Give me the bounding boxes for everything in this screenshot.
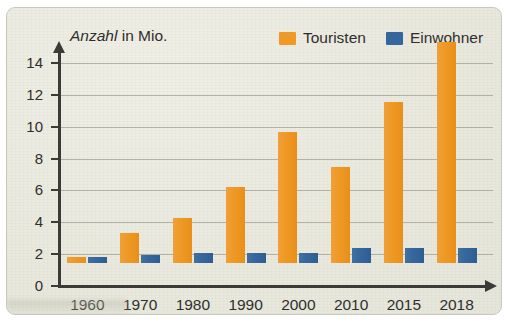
bar-touristen-1960[interactable]	[67, 257, 86, 263]
x-category-label-2000: 2000	[272, 296, 325, 314]
x-category-label-2010: 2010	[325, 296, 378, 314]
x-category-label-2018: 2018	[430, 296, 483, 314]
bar-touristen-1970[interactable]	[120, 233, 139, 263]
x-category-label-1980: 1980	[167, 296, 220, 314]
bar-einwohner-1960[interactable]	[88, 257, 107, 263]
scan-shadow	[7, 300, 127, 315]
chart-page: 02468101214 Anzahl in Mio. Touristen Ein…	[0, 0, 508, 329]
bar-einwohner-2010[interactable]	[352, 248, 371, 263]
bar-touristen-1980[interactable]	[173, 218, 192, 263]
bar-groups	[7, 8, 501, 314]
bar-touristen-2000[interactable]	[278, 132, 297, 263]
bar-touristen-2015[interactable]	[384, 102, 403, 263]
bar-touristen-2010[interactable]	[331, 167, 350, 263]
bar-touristen-1990[interactable]	[226, 187, 245, 263]
bar-einwohner-1980[interactable]	[194, 253, 213, 263]
bar-touristen-2018[interactable]	[437, 42, 456, 263]
chart-card: 02468101214 Anzahl in Mio. Touristen Ein…	[6, 7, 502, 315]
plot-area: 02468101214 Anzahl in Mio. Touristen Ein…	[7, 8, 501, 314]
bar-einwohner-1970[interactable]	[141, 255, 160, 263]
bar-einwohner-2015[interactable]	[405, 248, 424, 263]
x-category-label-2015: 2015	[378, 296, 431, 314]
bar-einwohner-2000[interactable]	[299, 253, 318, 263]
bar-einwohner-2018[interactable]	[458, 248, 477, 263]
bar-einwohner-1990[interactable]	[247, 253, 266, 263]
x-category-label-1990: 1990	[219, 296, 272, 314]
